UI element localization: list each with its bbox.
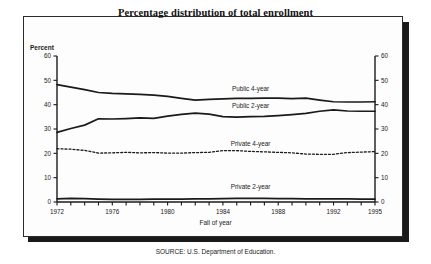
source-note: SOURCE: U.S. Department of Education. <box>0 248 431 255</box>
series-label-public-2-year: Public 2-year <box>221 102 281 109</box>
y-tick-label-left: 60 <box>27 52 51 59</box>
series-label-private-2-year: Private 2-year <box>221 183 281 190</box>
y-tick-label-left: 40 <box>27 101 51 108</box>
y-tick-label-left: 20 <box>27 150 51 157</box>
y-tick-label-right: 10 <box>381 174 405 181</box>
series-line-private-4-year <box>57 149 375 155</box>
x-tick-label: 1972 <box>42 208 72 215</box>
y-tick-label-right: 0 <box>381 198 405 205</box>
series-line-public-2-year <box>57 110 375 133</box>
y-tick-label-left: 30 <box>27 125 51 132</box>
x-axis-title: Fall of year <box>0 219 431 226</box>
x-tick-label: 1992 <box>319 208 349 215</box>
y-tick-label-right: 50 <box>381 77 405 84</box>
x-tick-label: 1976 <box>97 208 127 215</box>
y-tick-label-left: 10 <box>27 174 51 181</box>
series-label-private-4-year: Private 4-year <box>221 140 281 147</box>
y-tick-label-left: 50 <box>27 77 51 84</box>
x-tick-label: 1980 <box>153 208 183 215</box>
series-label-public-4-year: Public 4-year <box>221 85 281 92</box>
x-tick-label: 1988 <box>263 208 293 215</box>
axes-group <box>54 56 379 206</box>
y-tick-label-right: 40 <box>381 101 405 108</box>
series-line-private-2-year <box>57 198 375 199</box>
y-tick-label-right: 20 <box>381 150 405 157</box>
series-line-public-4-year <box>57 85 375 102</box>
series-group <box>57 85 375 200</box>
y-tick-label-left: 0 <box>27 198 51 205</box>
x-tick-label: 1995 <box>360 208 390 215</box>
y-tick-label-right: 30 <box>381 125 405 132</box>
y-tick-label-right: 60 <box>381 52 405 59</box>
x-tick-label: 1984 <box>208 208 238 215</box>
figure-container: Percentage distribution of total enrollm… <box>0 0 431 264</box>
